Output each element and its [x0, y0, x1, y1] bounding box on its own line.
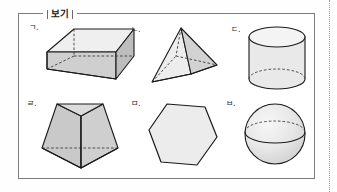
figure-hexagon: [145, 100, 223, 172]
worksheet-page: 보기 ㄱ.: [0, 0, 337, 192]
shape-label-6: ㅂ.: [226, 100, 236, 108]
page-margin-rule: [329, 0, 330, 192]
shape-label-4: ㄹ.: [27, 100, 37, 108]
shape-item-square-pyramid: ㄴ.: [129, 22, 229, 100]
figure-square-pyramid: [143, 24, 229, 96]
shape-item-truncated-pyramid: ㄹ.: [23, 96, 143, 176]
figure-cylinder: [245, 24, 311, 96]
shape-item-cylinder: ㄷ.: [229, 22, 315, 100]
shape-item-sphere: ㅂ.: [224, 96, 316, 176]
shape-label-5: ㅁ.: [131, 100, 141, 108]
figure-truncated-pyramid: [39, 98, 129, 174]
figure-sphere: [240, 100, 314, 172]
shape-label-3: ㄷ.: [231, 26, 241, 34]
shape-item-hexagon: ㅁ.: [129, 96, 229, 176]
shape-label-1: ㄱ.: [29, 24, 39, 32]
shape-label-2: ㄴ.: [131, 26, 141, 34]
boxi-frame: 보기 ㄱ.: [18, 13, 315, 179]
shape-grid: ㄱ.: [19, 14, 314, 178]
